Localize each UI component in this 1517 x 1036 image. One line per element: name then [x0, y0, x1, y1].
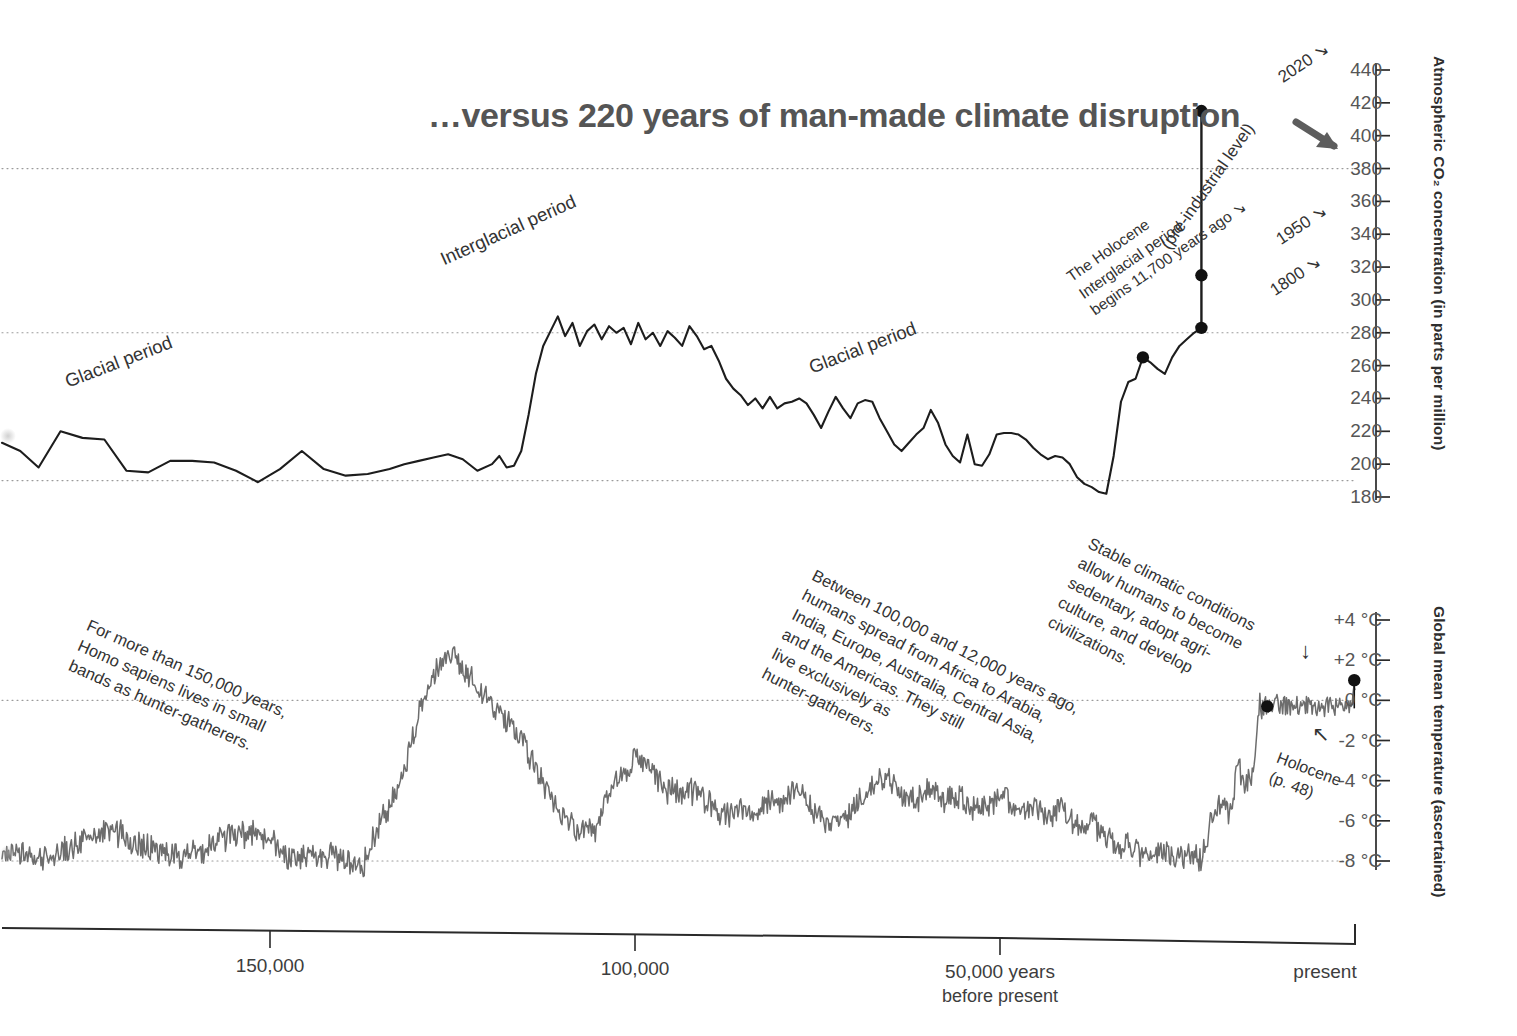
co2-tick-280: 280: [1330, 322, 1382, 344]
x-tick-label-100000: 100,000: [601, 958, 670, 980]
x-axis-line: [2, 924, 1355, 944]
climate-chart-canvas: [0, 0, 1517, 1036]
left-edge-fade-top: [0, 428, 16, 444]
temperature-tick--6: -6 °C: [1316, 810, 1382, 832]
temperature-tick-+2: +2 °C: [1316, 649, 1382, 671]
co2-tick-200: 200: [1330, 453, 1382, 475]
temperature-tick-+4: +4 °C: [1316, 609, 1382, 631]
co2-tick-380: 380: [1330, 158, 1382, 180]
left-edge-fade-bottom: [0, 845, 16, 861]
temperature-tick--8: -8 °C: [1316, 850, 1382, 872]
co2-tick-320: 320: [1330, 256, 1382, 278]
temperature-axis-title: Global mean temperature (ascertained): [1430, 606, 1448, 897]
co2-tick-260: 260: [1330, 355, 1382, 377]
co2-tick-420: 420: [1330, 92, 1382, 114]
temperature-tick-0: 0 °C: [1316, 689, 1382, 711]
x-tick-label-present: present: [1293, 961, 1356, 983]
page-title: …versus 220 years of man-made climate di…: [428, 96, 1240, 135]
co2-tick-440: 440: [1330, 59, 1382, 81]
co2-tick-340: 340: [1330, 223, 1382, 245]
holocene-reference-arrow: ↖: [1312, 722, 1330, 746]
co2-tick-180: 180: [1330, 486, 1382, 508]
co2-tick-300: 300: [1330, 289, 1382, 311]
co2-tick-400: 400: [1330, 125, 1382, 147]
x-tick-label-150000: 150,000: [236, 955, 305, 977]
co2-curve: [2, 316, 1201, 493]
x-tick-label-50000: 50,000 years: [945, 961, 1055, 983]
x-axis-sublabel: before present: [942, 986, 1058, 1007]
co2-axis-title: Atmospheric CO₂ concentration (in parts …: [1430, 56, 1448, 450]
co2-tick-240: 240: [1330, 387, 1382, 409]
co2-tick-220: 220: [1330, 420, 1382, 442]
stable-conditions-arrow: ↓: [1300, 638, 1311, 664]
co2-tick-360: 360: [1330, 190, 1382, 212]
